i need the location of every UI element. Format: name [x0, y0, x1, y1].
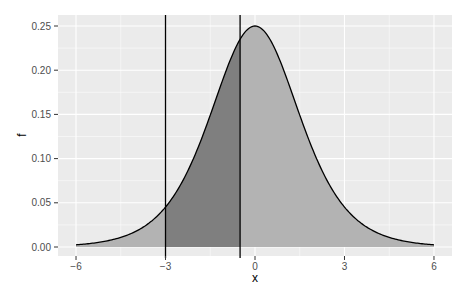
- x-tick-label: −3: [160, 261, 172, 272]
- x-tick-label: 6: [431, 261, 437, 272]
- density-chart: 0.000.050.100.150.200.25 −6−3036 x f: [0, 0, 468, 303]
- y-tick-label: 0.05: [32, 197, 52, 208]
- x-axis-ticks: −6−3036: [70, 256, 437, 272]
- y-axis-ticks: 0.000.050.100.150.200.25: [32, 21, 58, 253]
- y-tick-label: 0.25: [32, 21, 52, 32]
- y-axis-label: f: [15, 133, 29, 137]
- y-tick-label: 0.10: [32, 153, 52, 164]
- y-tick-label: 0.00: [32, 242, 52, 253]
- y-tick-label: 0.15: [32, 109, 52, 120]
- y-tick-label: 0.20: [32, 65, 52, 76]
- x-tick-label: 3: [342, 261, 348, 272]
- x-axis-label: x: [252, 271, 258, 285]
- x-tick-label: −6: [70, 261, 82, 272]
